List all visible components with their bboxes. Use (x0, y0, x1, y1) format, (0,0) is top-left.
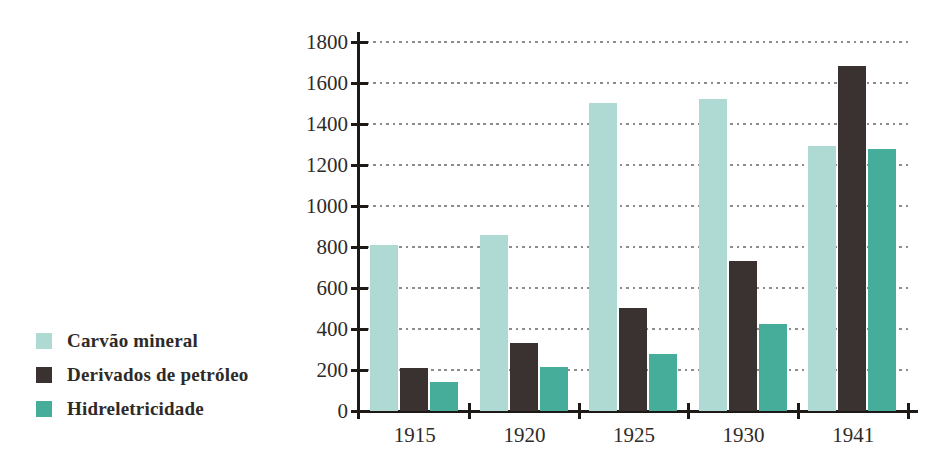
bar-1930-series0 (699, 99, 727, 411)
y-axis-tick-label: 200 (286, 359, 348, 381)
y-axis-tick-label: 1600 (286, 72, 348, 94)
energy-bar-chart: Carvão mineral Derivados de petróleo Hid… (0, 0, 948, 470)
y-axis-tick-label: 1400 (286, 113, 348, 135)
x-axis-tick-label: 1915 (370, 424, 460, 446)
x-axis-tick-label: 1930 (699, 424, 789, 446)
x-axis-tick (907, 403, 910, 419)
y-axis-tick-label: 1000 (286, 195, 348, 217)
bar-1920-series0 (480, 235, 508, 411)
x-axis-tick (797, 403, 800, 419)
bar-1930-series2 (759, 324, 787, 411)
x-axis-tick (578, 403, 581, 419)
bar-1941-series2 (868, 149, 896, 411)
bar-1915-series1 (400, 368, 428, 411)
bar-1925-series1 (619, 308, 647, 411)
y-axis-tick-label: 600 (286, 277, 348, 299)
x-axis-tick (468, 403, 471, 419)
x-axis-tick (687, 403, 690, 419)
gridline (360, 82, 908, 84)
plot-area: 0200400600800100012001400160018001915192… (0, 0, 948, 470)
gridline (360, 41, 908, 43)
y-axis-line (357, 32, 360, 419)
y-axis-tick-label: 1200 (286, 154, 348, 176)
bar-1920-series2 (540, 367, 568, 411)
y-axis-tick-label: 1800 (286, 31, 348, 53)
x-axis-tick-label: 1925 (589, 424, 679, 446)
x-axis-tick-label: 1941 (808, 424, 898, 446)
x-axis-tick-label: 1920 (479, 424, 569, 446)
bar-1925-series2 (649, 354, 677, 411)
gridline (360, 123, 908, 125)
bar-1941-series0 (808, 146, 836, 411)
y-axis-tick-label: 800 (286, 236, 348, 258)
bar-1915-series2 (430, 382, 458, 411)
bar-1915-series0 (370, 245, 398, 411)
y-axis-tick-label: 400 (286, 318, 348, 340)
bar-1930-series1 (729, 261, 757, 411)
bar-1920-series1 (510, 343, 538, 411)
bar-1941-series1 (838, 66, 866, 411)
bar-1925-series0 (589, 103, 617, 411)
y-axis-tick-label: 0 (286, 400, 348, 422)
